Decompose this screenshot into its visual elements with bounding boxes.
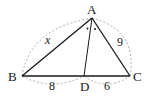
- vertex-label-a: A: [87, 2, 97, 17]
- side-ab: [22, 18, 92, 76]
- vertex-label-d: D: [80, 79, 89, 94]
- side-ac: [92, 18, 130, 76]
- vertex-label-c: C: [133, 69, 142, 84]
- label-ab-x: x: [44, 33, 51, 47]
- angle-mark-left: [87, 28, 89, 30]
- triangle-diagram: A B C D x 9 8 6: [0, 0, 152, 97]
- vertex-label-b: B: [8, 69, 17, 84]
- label-dc-6: 6: [104, 79, 110, 93]
- label-bd-8: 8: [49, 79, 55, 93]
- label-ac-9: 9: [117, 35, 123, 49]
- bisector-ad: [84, 18, 92, 76]
- angle-mark-right: [94, 28, 96, 30]
